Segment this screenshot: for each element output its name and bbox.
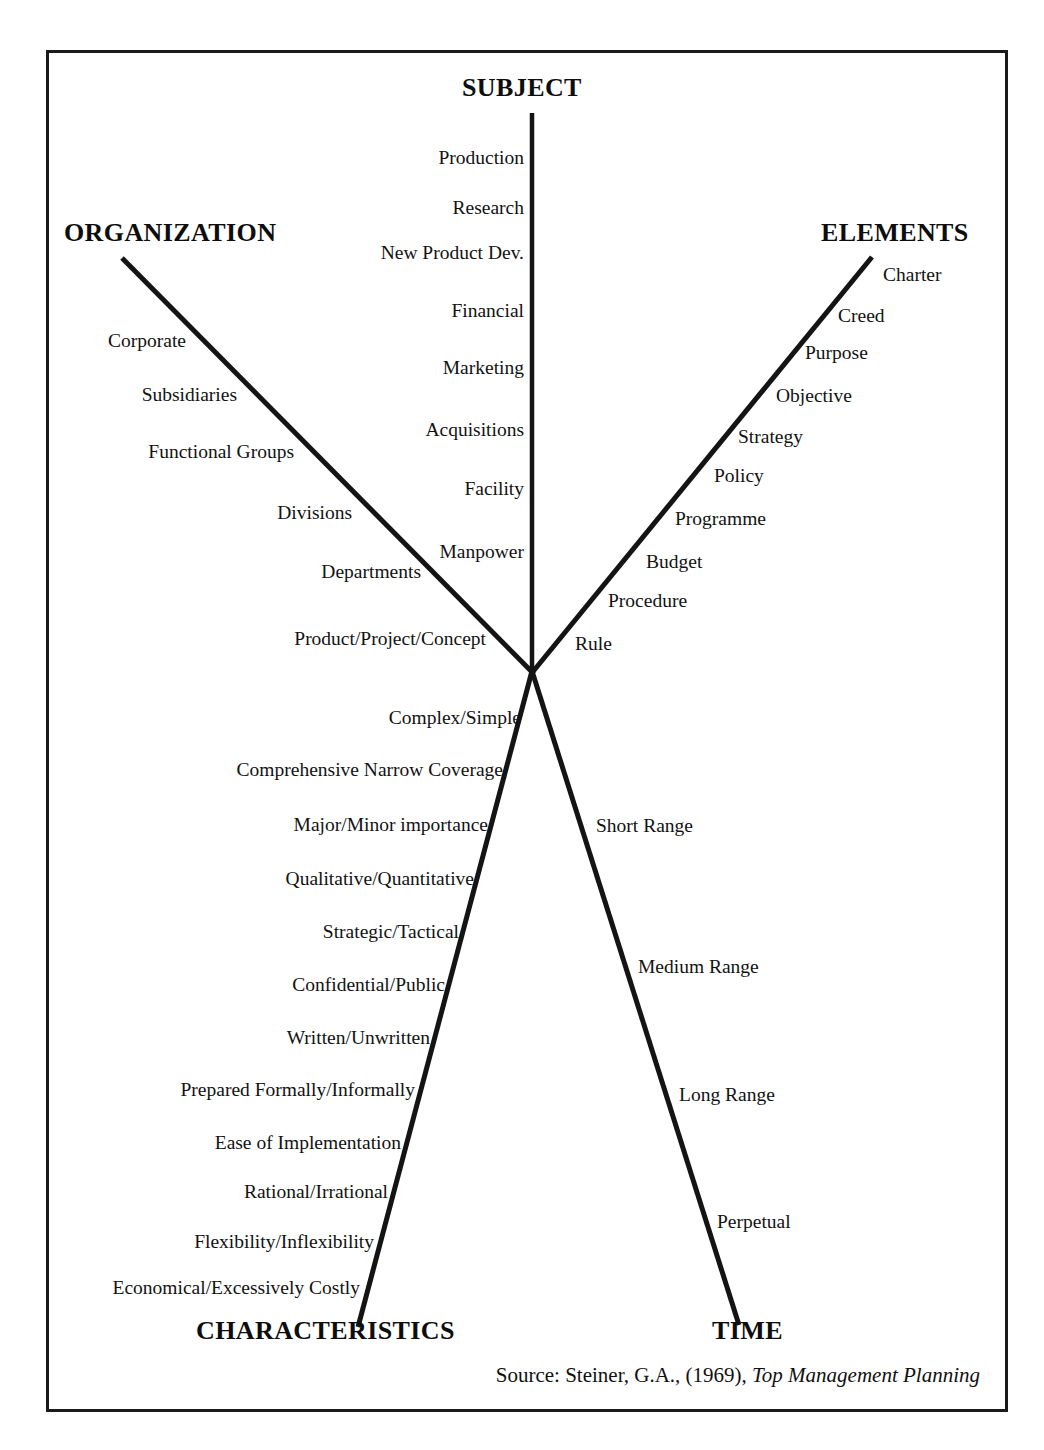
source-book-title: Top Management Planning (752, 1363, 980, 1387)
organization-label-subsidiaries: Subsidiaries (142, 385, 237, 405)
subject-label-acquisitions: Acquisitions (425, 420, 524, 440)
elements-label-objective: Objective (776, 386, 852, 406)
subject-label-new-product-dev: New Product Dev. (381, 243, 524, 263)
elements-label-procedure: Procedure (608, 591, 687, 611)
subject-label-marketing: Marketing (443, 358, 524, 378)
organization-label-product-project-concept: Product/Project/Concept (294, 629, 486, 649)
diagram-page: SUBJECT ORGANIZATION ELEMENTS CHARACTERI… (0, 0, 1044, 1450)
time-label-medium-range: Medium Range (638, 957, 759, 977)
characteristics-label-rational-irrational: Rational/Irrational (244, 1182, 388, 1202)
time-label-long-range: Long Range (679, 1085, 775, 1105)
elements-label-programme: Programme (675, 509, 766, 529)
organization-label-divisions: Divisions (277, 503, 352, 523)
diagram-frame (46, 50, 1008, 1412)
subject-label-manpower: Manpower (440, 542, 524, 562)
axis-title-elements: ELEMENTS (821, 218, 969, 248)
elements-label-charter: Charter (883, 265, 941, 285)
characteristics-label-comprehensive-narrow-coverage: Comprehensive Narrow Coverage (237, 760, 503, 780)
subject-label-financial: Financial (451, 301, 524, 321)
characteristics-label-complex-simple: Complex/Simple (389, 708, 521, 728)
axis-title-organization: ORGANIZATION (64, 218, 276, 248)
characteristics-label-qualitative-quantitative: Qualitative/Quantitative (286, 869, 474, 889)
organization-label-functional-groups: Functional Groups (148, 442, 294, 462)
elements-label-purpose: Purpose (805, 343, 868, 363)
organization-label-corporate: Corporate (108, 331, 186, 351)
subject-label-facility: Facility (464, 479, 524, 499)
source-prefix: Source: Steiner, G.A., (1969), (496, 1363, 752, 1387)
characteristics-label-prepared-formally-informally: Prepared Formally/Informally (181, 1080, 415, 1100)
characteristics-label-major-minor-importance: Major/Minor importance (294, 815, 488, 835)
characteristics-label-ease-of-implementation: Ease of Implementation (215, 1133, 401, 1153)
elements-label-strategy: Strategy (738, 427, 803, 447)
characteristics-label-strategic-tactical: Strategic/Tactical (323, 922, 459, 942)
time-label-short-range: Short Range (596, 816, 693, 836)
elements-label-rule: Rule (575, 634, 612, 654)
axis-title-characteristics: CHARACTERISTICS (196, 1316, 455, 1346)
elements-label-policy: Policy (714, 466, 764, 486)
elements-label-creed: Creed (838, 306, 885, 326)
subject-label-production: Production (438, 148, 524, 168)
elements-label-budget: Budget (646, 552, 702, 572)
time-label-perpetual: Perpetual (717, 1212, 791, 1232)
characteristics-label-flexibility-inflexibility: Flexibility/Inflexibility (194, 1232, 374, 1252)
subject-label-research: Research (453, 198, 524, 218)
axis-title-subject: SUBJECT (462, 73, 582, 103)
axis-title-time: TIME (712, 1316, 783, 1346)
source-citation: Source: Steiner, G.A., (1969), Top Manag… (496, 1363, 980, 1388)
characteristics-label-written-unwritten: Written/Unwritten (287, 1028, 430, 1048)
characteristics-label-economical-excessively-costly: Economical/Excessively Costly (113, 1278, 361, 1298)
characteristics-label-confidential-public: Confidential/Public (292, 975, 445, 995)
organization-label-departments: Departments (321, 562, 421, 582)
